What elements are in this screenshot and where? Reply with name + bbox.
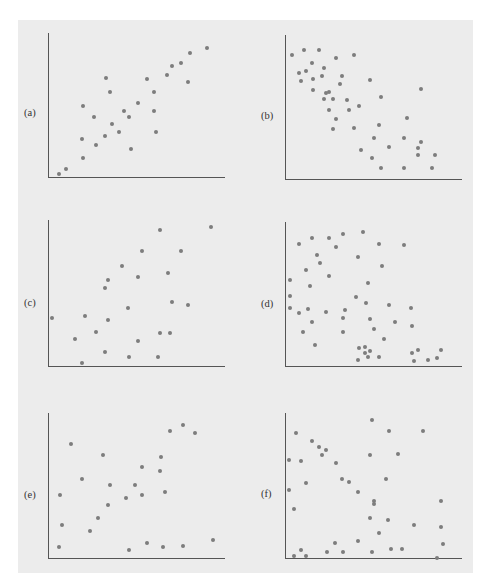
data-point: [370, 550, 374, 554]
data-point: [368, 317, 372, 321]
data-point: [327, 90, 331, 94]
data-point: [352, 53, 356, 57]
data-point: [288, 278, 292, 282]
data-point: [80, 477, 84, 481]
data-point: [186, 303, 190, 307]
data-point: [327, 236, 331, 240]
data-point: [387, 303, 391, 307]
data-point: [327, 274, 331, 278]
data-point: [387, 145, 391, 149]
data-point: [120, 264, 124, 268]
data-point: [161, 545, 165, 549]
data-point: [372, 502, 376, 506]
data-point: [179, 249, 183, 253]
data-point: [168, 429, 172, 433]
data-point: [179, 61, 183, 65]
data-point: [370, 418, 374, 422]
data-point: [297, 71, 301, 75]
data-point: [299, 79, 303, 83]
data-point: [288, 294, 292, 298]
data-point: [377, 531, 381, 535]
data-point: [325, 550, 329, 554]
data-point: [297, 311, 301, 315]
data-point: [159, 455, 163, 459]
data-point: [356, 539, 360, 543]
data-point: [400, 547, 404, 551]
data-point: [357, 104, 361, 108]
data-point: [439, 499, 443, 503]
data-point: [57, 172, 61, 176]
data-point: [127, 115, 131, 119]
data-point: [430, 166, 434, 170]
data-point: [136, 101, 140, 105]
data-point: [426, 358, 430, 362]
data-point: [80, 361, 84, 365]
data-point: [80, 137, 84, 141]
data-point: [170, 64, 174, 68]
data-point: [327, 108, 331, 112]
data-point: [205, 46, 209, 50]
data-point: [357, 346, 361, 350]
data-point: [379, 95, 383, 99]
data-point: [306, 307, 310, 311]
data-point: [287, 458, 291, 462]
data-point: [136, 275, 140, 279]
data-point: [363, 351, 367, 355]
data-point: [402, 166, 406, 170]
data-point: [320, 74, 324, 78]
data-point: [108, 483, 112, 487]
data-point: [421, 429, 425, 433]
data-point: [356, 255, 360, 259]
data-point: [387, 429, 391, 433]
data-point: [294, 431, 298, 435]
data-point: [334, 117, 338, 121]
data-point: [170, 300, 174, 304]
data-point: [366, 281, 370, 285]
data-point: [154, 130, 158, 134]
data-point: [370, 156, 374, 160]
data-point: [347, 108, 351, 112]
data-point: [372, 327, 376, 331]
scatter-panel-f: [285, 413, 462, 559]
panel-label-f: (f): [261, 488, 272, 499]
data-point: [343, 308, 347, 312]
data-point: [304, 481, 308, 485]
data-point: [186, 80, 190, 84]
data-point: [106, 503, 110, 507]
data-point: [324, 448, 328, 452]
plot-area: [285, 222, 462, 367]
data-point: [412, 359, 416, 363]
data-point: [104, 76, 108, 80]
panel-label-c: (c): [24, 297, 36, 308]
data-point: [313, 343, 317, 347]
data-point: [96, 516, 100, 520]
scatter-panel-e: [48, 413, 225, 559]
data-point: [340, 477, 344, 481]
data-point: [366, 355, 370, 359]
data-point: [402, 136, 406, 140]
data-point: [410, 324, 414, 328]
data-point: [368, 516, 372, 520]
data-point: [292, 554, 296, 558]
data-point: [140, 465, 144, 469]
data-point: [108, 90, 112, 94]
data-point: [363, 345, 367, 349]
data-point: [103, 350, 107, 354]
data-point: [81, 156, 85, 160]
data-point: [333, 541, 337, 545]
data-point: [334, 461, 338, 465]
data-point: [297, 242, 301, 246]
data-point: [435, 356, 439, 360]
data-point: [341, 550, 345, 554]
data-point: [359, 148, 363, 152]
data-point: [354, 295, 358, 299]
data-point: [299, 459, 303, 463]
data-point: [361, 230, 365, 234]
data-point: [439, 348, 443, 352]
panel-label-b: (b): [261, 110, 273, 121]
data-point: [377, 123, 381, 127]
data-point: [331, 127, 335, 131]
data-point: [341, 232, 345, 236]
data-point: [152, 90, 156, 94]
data-point: [152, 109, 156, 113]
